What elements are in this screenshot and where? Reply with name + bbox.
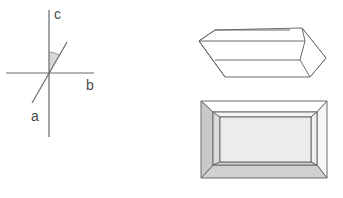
tabular-bottom-bevel [201, 165, 327, 178]
tabular-face [220, 117, 311, 162]
tabular-inner-left [213, 112, 220, 165]
tabular-left-bevel [201, 101, 213, 178]
tabular-crystal [201, 101, 327, 178]
a-axis-label: a [31, 108, 39, 124]
b-axis-label: b [86, 77, 94, 93]
crystal-axes [6, 10, 94, 137]
c-axis-label: c [54, 6, 61, 22]
crystal-axes-diagram: c b a [0, 0, 343, 198]
tabular-inner-right [311, 112, 317, 165]
tabular-top-bevel [201, 101, 327, 112]
tabular-inner-top [213, 112, 317, 117]
prism-crystal [199, 28, 326, 77]
